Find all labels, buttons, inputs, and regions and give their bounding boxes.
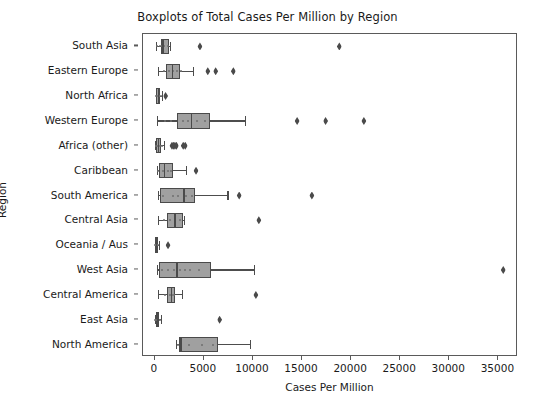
data-point bbox=[163, 70, 165, 72]
outlier-marker bbox=[323, 117, 328, 125]
whisker-high bbox=[210, 120, 245, 121]
outlier-marker bbox=[205, 67, 210, 75]
y-tick-mark bbox=[134, 70, 138, 71]
x-tick-label: 20000 bbox=[333, 362, 366, 374]
outlier-marker bbox=[237, 192, 242, 200]
outlier-marker bbox=[253, 291, 258, 299]
y-tick-mark bbox=[134, 219, 138, 220]
data-point bbox=[173, 294, 175, 296]
median-line bbox=[158, 138, 159, 153]
y-tick-label: West Asia bbox=[77, 263, 128, 275]
outlier-marker bbox=[213, 67, 218, 75]
outlier-marker bbox=[194, 167, 199, 175]
data-point bbox=[176, 70, 178, 72]
x-tick-mark bbox=[301, 356, 302, 360]
cap-high bbox=[254, 265, 255, 274]
data-point bbox=[188, 344, 190, 346]
data-point bbox=[191, 195, 193, 197]
y-tick-mark bbox=[134, 194, 138, 195]
median-line bbox=[164, 163, 165, 178]
cap-high bbox=[161, 315, 162, 324]
boxplot-rows bbox=[143, 34, 516, 355]
y-tick-label: Central America bbox=[43, 288, 128, 300]
data-point bbox=[167, 269, 169, 271]
data-point bbox=[184, 269, 186, 271]
data-point bbox=[156, 45, 158, 47]
outlier-marker bbox=[501, 266, 506, 274]
cap-high bbox=[164, 141, 165, 150]
x-tick-label: 5000 bbox=[189, 362, 216, 374]
outlier-marker bbox=[309, 192, 314, 200]
cap-high bbox=[162, 91, 163, 100]
data-point bbox=[179, 219, 181, 221]
data-point bbox=[170, 170, 172, 172]
median-line bbox=[191, 113, 192, 128]
cap-low bbox=[157, 116, 158, 125]
data-point bbox=[162, 195, 164, 197]
cap-low bbox=[158, 290, 159, 299]
data-point bbox=[167, 45, 169, 47]
x-tick-label: 35000 bbox=[481, 362, 514, 374]
x-tick-mark bbox=[252, 356, 253, 360]
data-point bbox=[161, 145, 163, 147]
data-point bbox=[185, 195, 187, 197]
outlier-marker bbox=[163, 92, 168, 100]
y-tick-mark bbox=[134, 268, 138, 269]
median-line bbox=[174, 213, 175, 228]
x-tick-mark bbox=[399, 356, 400, 360]
median-line bbox=[176, 262, 177, 277]
x-tick-mark bbox=[350, 356, 351, 360]
outlier-marker bbox=[166, 241, 171, 249]
data-point bbox=[164, 120, 166, 122]
data-point bbox=[187, 120, 189, 122]
data-point bbox=[163, 219, 165, 221]
data-point bbox=[212, 344, 214, 346]
data-point bbox=[160, 95, 162, 97]
x-tick-mark bbox=[497, 356, 498, 360]
x-tick-label: 25000 bbox=[382, 362, 415, 374]
chart-title: Boxplots of Total Cases Per Million by R… bbox=[0, 10, 535, 24]
y-tick-label: Africa (other) bbox=[59, 139, 128, 151]
cap-high bbox=[186, 166, 187, 175]
data-point bbox=[170, 120, 172, 122]
whisker-low bbox=[157, 120, 178, 121]
data-point bbox=[167, 170, 169, 172]
x-tick-label: 10000 bbox=[235, 362, 268, 374]
cap-high bbox=[227, 191, 228, 200]
y-tick-label: North America bbox=[52, 338, 128, 350]
outlier-marker bbox=[295, 117, 300, 125]
median-line bbox=[156, 237, 157, 252]
x-tick-label: 30000 bbox=[432, 362, 465, 374]
data-point bbox=[177, 344, 179, 346]
data-point bbox=[179, 269, 181, 271]
y-tick-label: South Asia bbox=[72, 39, 128, 51]
cap-high bbox=[182, 290, 183, 299]
cap-high bbox=[184, 216, 185, 225]
y-tick-label: Central Asia bbox=[64, 213, 128, 225]
y-tick-mark bbox=[134, 169, 138, 170]
whisker-high bbox=[218, 344, 250, 345]
median-line bbox=[157, 312, 158, 327]
data-point bbox=[157, 244, 159, 246]
y-tick-mark bbox=[134, 244, 138, 245]
outlier-marker bbox=[256, 216, 261, 224]
data-point bbox=[189, 269, 191, 271]
data-point bbox=[198, 269, 200, 271]
whisker-high bbox=[175, 294, 182, 295]
whisker-high bbox=[173, 170, 185, 171]
y-tick-mark bbox=[134, 293, 138, 294]
outlier-marker bbox=[231, 67, 236, 75]
y-tick-mark bbox=[134, 318, 138, 319]
y-tick-mark bbox=[134, 343, 138, 344]
data-point bbox=[157, 170, 159, 172]
x-tick-mark bbox=[154, 356, 155, 360]
y-tick-label: South America bbox=[51, 189, 128, 201]
median-line bbox=[158, 88, 159, 103]
median-line bbox=[162, 39, 163, 54]
data-point bbox=[196, 120, 198, 122]
data-point bbox=[172, 195, 174, 197]
y-tick-mark bbox=[134, 119, 138, 120]
whisker-high bbox=[211, 269, 254, 270]
x-axis-title: Cases Per Million bbox=[142, 381, 517, 393]
outlier-marker bbox=[361, 117, 366, 125]
